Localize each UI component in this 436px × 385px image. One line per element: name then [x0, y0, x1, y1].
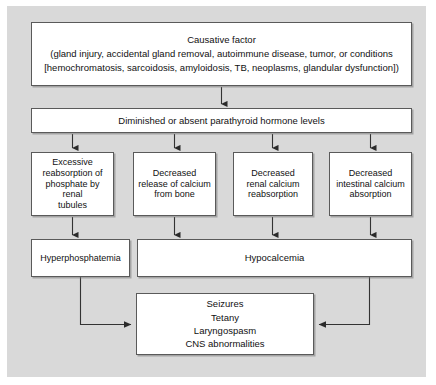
- node-causative-factor: Causative factor (gland injury, accident…: [31, 22, 412, 86]
- node-renal-calcium-reabsorption: Decreased renal calcium reabsorption: [233, 152, 313, 216]
- node-calcium-release-bone: Decreased release of calcium from bone: [133, 152, 216, 216]
- node-hypocalcemia-label: Hypocalcemia: [138, 252, 411, 263]
- flowchart-figure: Causative factor (gland injury, accident…: [0, 0, 436, 385]
- node-hyperphosphatemia-label: Hyperphosphatemia: [32, 253, 129, 264]
- node-intestinal-calcium-absorption: Decreased intestinal calcium absorption: [329, 152, 412, 216]
- node-phosphate-reabsorption: Excessive reabsorption of phosphate by r…: [31, 152, 114, 216]
- node-hypocalcemia: Hypocalcemia: [137, 239, 412, 277]
- node-clinical-signs: Seizures Tetany Laryngospasm CNS abnorma…: [136, 293, 314, 355]
- node-clinical-signs-label: Seizures Tetany Laryngospasm CNS abnorma…: [137, 297, 313, 351]
- node-pth-levels: Diminished or absent parathyroid hormone…: [31, 108, 412, 133]
- node-causative-factor-label: Causative factor (gland injury, accident…: [32, 33, 411, 74]
- node-calcium-release-bone-label: Decreased release of calcium from bone: [134, 168, 215, 200]
- node-intestinal-calcium-absorption-label: Decreased intestinal calcium absorption: [330, 168, 411, 200]
- node-hyperphosphatemia: Hyperphosphatemia: [31, 239, 130, 277]
- node-renal-calcium-reabsorption-label: Decreased renal calcium reabsorption: [234, 168, 312, 200]
- node-phosphate-reabsorption-label: Excessive reabsorption of phosphate by r…: [32, 157, 113, 210]
- node-pth-levels-label: Diminished or absent parathyroid hormone…: [32, 115, 411, 126]
